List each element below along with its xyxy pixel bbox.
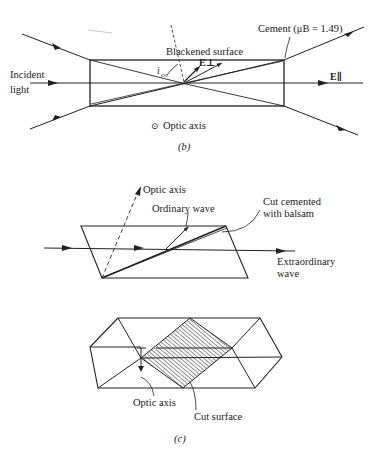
cut-cemented-label-1: Cut cemented bbox=[263, 196, 322, 207]
e-perp-label: E⊥ bbox=[199, 57, 215, 68]
blackened-surface-label: Blackened surface bbox=[166, 46, 244, 57]
optic-axis-label: Optic axis bbox=[163, 120, 206, 131]
arrow-icon bbox=[48, 80, 58, 86]
incident-label-1: Incident bbox=[10, 69, 44, 80]
incident-label-2: light bbox=[10, 84, 29, 95]
arrow-icon bbox=[318, 80, 328, 86]
figure-c-bottom: Optic axis Cut surface (c) bbox=[90, 318, 282, 445]
figure-b: Cement (μB = 1.49) Blackened surface i c… bbox=[10, 23, 364, 153]
cut-cemented-label-2: with balsam bbox=[263, 208, 314, 219]
ordinary-wave-label: Ordinary wave bbox=[152, 203, 215, 214]
cut-surface-hatched bbox=[141, 318, 232, 388]
extraordinary-label-1: Extraordinary bbox=[277, 256, 336, 267]
figure-c-top: Optic axis Ordinary wave Cut cemented wi… bbox=[44, 184, 336, 279]
cut-surface-label: Cut surface bbox=[194, 411, 242, 422]
angle-subscript: co bbox=[161, 71, 168, 79]
caption-b: (b) bbox=[178, 141, 191, 153]
polarizer-diagram: Cement (μB = 1.49) Blackened surface i c… bbox=[0, 0, 374, 450]
angle-arc bbox=[167, 64, 178, 75]
optic-axis-label-c: Optic axis bbox=[143, 184, 186, 195]
optic-axis-dot-icon: ⊙ bbox=[151, 121, 159, 131]
extraordinary-label-2: wave bbox=[277, 268, 299, 279]
e-parallel-label: E∥ bbox=[330, 71, 342, 82]
cement-label: Cement (μB = 1.49) bbox=[258, 23, 343, 35]
angle-label: i bbox=[157, 65, 160, 76]
optic-axis-label-bottom: Optic axis bbox=[133, 397, 176, 408]
caption-c: (c) bbox=[174, 433, 186, 445]
